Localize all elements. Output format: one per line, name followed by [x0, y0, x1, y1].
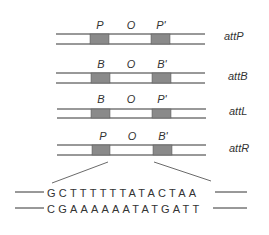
left-arm-label: B — [97, 93, 104, 105]
site-name: attR — [229, 142, 249, 154]
core-label: O — [127, 93, 136, 105]
zoom-line-right — [154, 162, 211, 181]
site-name: attP — [224, 30, 244, 42]
right-arm-label: P' — [156, 19, 166, 31]
site-name: attB — [228, 70, 248, 82]
left-arm-label: B — [97, 58, 104, 70]
left-arm-box — [91, 73, 110, 83]
att-row-attR: P O B' attR — [57, 130, 249, 155]
right-arm-label: P' — [157, 93, 167, 105]
left-arm-label: P — [96, 19, 104, 31]
left-arm-label: P — [99, 130, 107, 142]
att-row-attB: B O B' attB — [56, 58, 248, 83]
bottom-strand-sequence: CGAAAAAATATGATT — [47, 203, 202, 215]
site-name: attL — [229, 105, 247, 117]
att-sites-diagram: P O P' attP B O B' attB B O P' attL P O … — [0, 0, 269, 235]
left-arm-box — [92, 145, 110, 155]
att-row-attL: B O P' attL — [57, 93, 247, 118]
att-row-attP: P O P' attP — [56, 19, 244, 44]
core-label: O — [127, 19, 136, 31]
top-strand-sequence: GCTTTTTTATACTAA — [47, 187, 199, 199]
left-arm-box — [91, 109, 110, 118]
right-arm-box — [152, 73, 171, 83]
core-sequence: GCTTTTTTATACTAA CGAAAAAATATGATT — [15, 187, 247, 215]
core-label: O — [128, 130, 137, 142]
right-arm-box — [152, 109, 171, 118]
core-label: O — [127, 58, 136, 70]
right-arm-box — [151, 34, 170, 44]
right-arm-label: B' — [157, 58, 167, 70]
right-arm-box — [153, 145, 172, 155]
right-arm-label: B' — [158, 130, 168, 142]
left-arm-box — [90, 34, 109, 44]
zoom-line-left — [52, 162, 108, 183]
